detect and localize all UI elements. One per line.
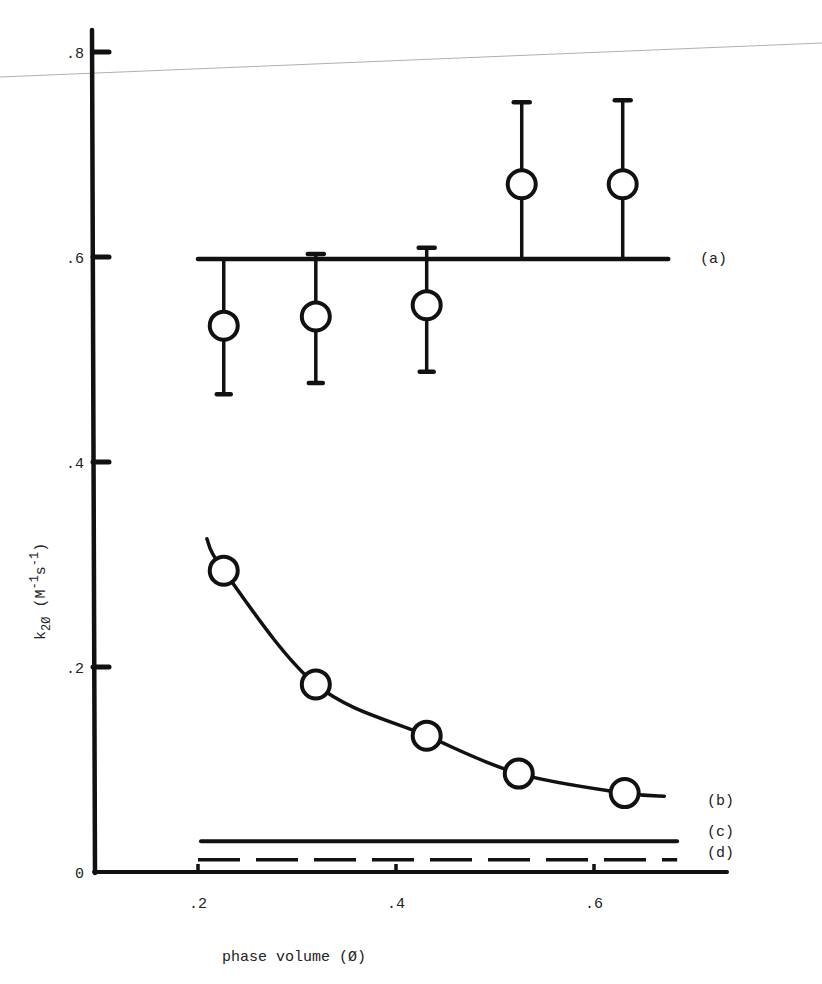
series-a-point [609, 100, 637, 259]
series-label-a: (a) [700, 251, 727, 268]
x-tick-label: .6 [585, 896, 603, 913]
y-axis-title: k2Ø (M-1s-1) [28, 543, 54, 640]
plot-series [198, 100, 677, 860]
y-tick-label: .6 [66, 251, 84, 268]
data-marker-circle [505, 760, 533, 788]
data-marker-circle [508, 170, 536, 198]
series-label-d: (d) [707, 845, 734, 862]
data-marker-circle [302, 670, 330, 698]
x-axis-title: phase volume (Ø) [222, 949, 366, 966]
data-marker-circle [210, 557, 238, 585]
data-marker-circle [413, 722, 441, 750]
series-a-point [302, 254, 330, 383]
data-marker-circle [302, 302, 330, 330]
series-a-point [413, 248, 441, 372]
series-a-point [210, 259, 238, 394]
series-label-c: (c) [707, 824, 734, 841]
x-tick-label: .4 [387, 896, 405, 913]
series-b-curve [207, 539, 664, 796]
y-tick-label: .4 [66, 456, 84, 473]
data-marker-circle [609, 170, 637, 198]
y-tick-label: .2 [66, 661, 84, 678]
x-tick-label: .2 [189, 896, 207, 913]
data-marker-circle [611, 779, 639, 807]
y-axis-line [92, 30, 95, 873]
series-label-b: (b) [707, 793, 734, 810]
data-marker-circle [210, 312, 238, 340]
data-marker-circle [413, 291, 441, 319]
y-tick-label: .8 [66, 46, 84, 63]
y-tick-label: 0 [75, 866, 84, 883]
series-a-point [508, 102, 536, 259]
chart: 0.2.4.6.8.2.4.6 (a)(b)(c)(d) k2Ø (M-1s-1… [0, 0, 822, 984]
labels: (a)(b)(c)(d) [700, 251, 734, 862]
scan-artifact-line [0, 43, 822, 77]
